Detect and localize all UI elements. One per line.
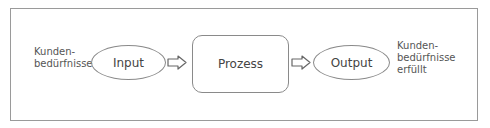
output-label: Output — [331, 56, 373, 70]
input-label: Input — [113, 56, 144, 70]
process-label: Prozess — [218, 57, 263, 71]
process-node: Prozess — [192, 35, 289, 93]
input-node: Input — [91, 45, 166, 80]
left-label: Kunden- bedürfnisse — [34, 46, 93, 70]
left-label-line-2: bedürfnisse — [34, 58, 93, 70]
left-label-line-1: Kunden- — [34, 46, 93, 58]
arrow-right-icon — [167, 55, 187, 70]
right-label-line-3: erfüllt — [397, 64, 456, 76]
arrow-right-icon — [291, 55, 311, 70]
right-label-line-2: bedürfnisse — [397, 52, 456, 64]
right-label: Kunden- bedürfnisse erfüllt — [397, 40, 456, 76]
output-node: Output — [313, 45, 390, 80]
right-label-line-1: Kunden- — [397, 40, 456, 52]
